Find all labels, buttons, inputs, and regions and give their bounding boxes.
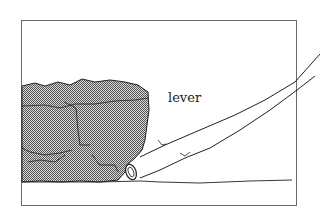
lever-illustration: [0, 0, 331, 219]
lever-shape: [140, 54, 320, 157]
lever-label: lever: [168, 90, 201, 105]
